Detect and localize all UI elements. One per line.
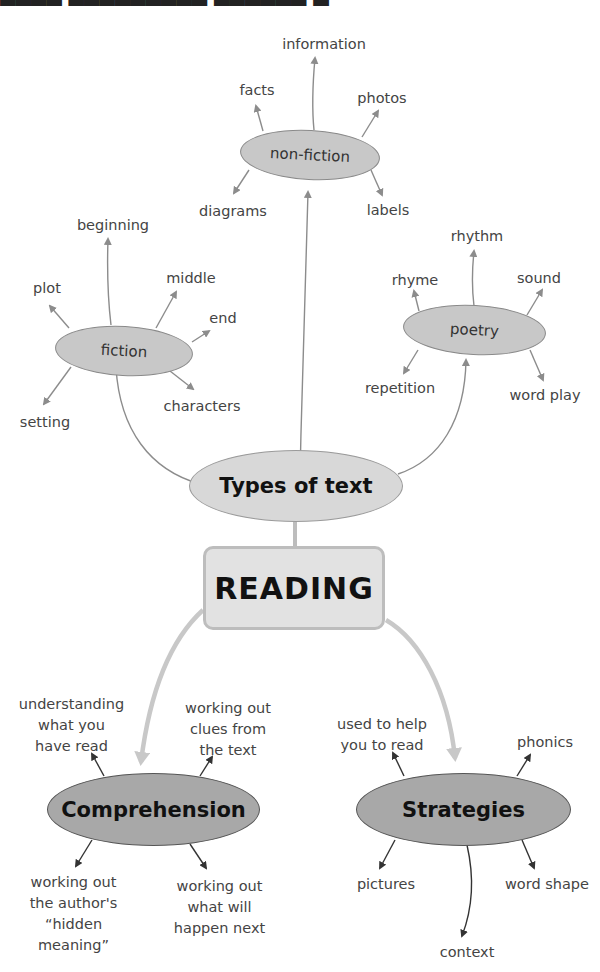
leaf-what-will-happen-next: working out what will happen next [172,876,267,939]
leaf-used-to-help: used to help you to read [332,714,432,756]
leaf-repetition: repetition [355,378,445,399]
leaf-facts: facts [222,80,292,101]
non-fiction-label: non-fiction [270,144,351,166]
leaf-understanding: understanding what you have read [14,694,129,757]
leaf-sound: sound [504,268,574,289]
leaf-middle: middle [156,268,226,289]
leaf-hidden-meaning: working out the author's “hidden meaning… [26,872,121,956]
leaf-end: end [198,308,248,329]
leaf-photos: photos [347,88,417,109]
poetry-label: poetry [450,320,500,341]
types-of-text-label: Types of text [219,474,372,498]
leaf-word-play: word play [500,385,590,406]
leaf-setting: setting [10,412,80,433]
reading-label: READING [214,571,374,606]
leaf-clues-from-text: working out clues from the text [178,698,278,761]
leaf-diagrams: diagrams [188,201,278,222]
fiction-leaf-arrows [44,239,209,404]
strategies-node: Strategies [356,773,571,846]
fiction-label: fiction [100,341,147,361]
leaf-beginning: beginning [68,215,158,236]
leaf-rhyme: rhyme [380,270,450,291]
leaf-word-shape: word shape [492,874,600,895]
comprehension-label: Comprehension [61,798,246,822]
leaf-phonics: phonics [495,732,595,753]
leaf-labels: labels [358,200,418,221]
leaf-information: information [274,34,374,55]
comprehension-node: Comprehension [47,773,260,846]
reading-mind-map: ▄▄▄▄ ▄▄▄▄▄▄▄▄▄ ▄▄▄▄▄▄ ▄ ▄▄▄▄▄ [0,0,600,972]
leaf-characters: characters [152,396,252,417]
leaf-context: context [417,942,517,963]
reading-center-box: READING [203,546,385,630]
types-of-text-node: Types of text [189,450,403,522]
leaf-rhythm: rhythm [437,226,517,247]
strategies-label: Strategies [402,798,525,822]
leaf-plot: plot [22,278,72,299]
leaf-pictures: pictures [336,874,436,895]
